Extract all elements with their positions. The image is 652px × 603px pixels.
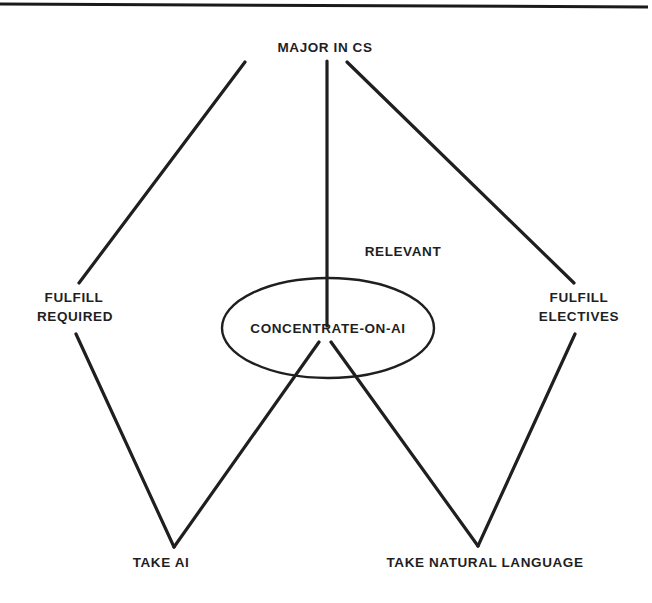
edge-fulfill-electives-to-take-natural-language (478, 334, 575, 546)
node-fulfill-electives-line1: FULFILL (550, 290, 609, 305)
edge-major-to-fulfill-required (79, 62, 245, 283)
node-fulfill-required-line1: FULFILL (45, 290, 104, 305)
edge-concentrate-to-take-ai (174, 342, 319, 547)
node-take-ai-label: TAKE AI (133, 555, 190, 570)
top-rule (0, 4, 648, 7)
node-fulfill-electives-line2: ELECTIVES (539, 309, 619, 324)
node-concentrate-on-ai-label: CONCENTRATE-ON-AI (250, 321, 405, 336)
node-fulfill-required-line2: REQUIRED (37, 309, 113, 324)
relevant-annotation: RELEVANT (365, 244, 442, 259)
goal-tree-diagram: MAJOR IN CS RELEVANT CONCENTRATE-ON-AI F… (0, 0, 652, 603)
edge-fulfill-required-to-take-ai (76, 334, 174, 547)
edge-concentrate-to-take-natural-language (331, 342, 478, 546)
node-take-natural-language-label: TAKE NATURAL LANGUAGE (386, 555, 583, 570)
node-major-in-cs-label: MAJOR IN CS (277, 40, 372, 55)
